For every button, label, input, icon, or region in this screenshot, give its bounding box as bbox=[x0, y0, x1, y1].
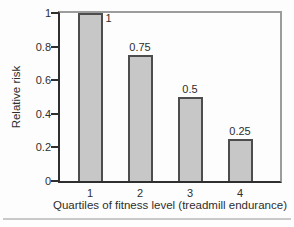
bar bbox=[228, 139, 253, 181]
x-tick-label: 4 bbox=[220, 186, 260, 200]
plot-area bbox=[58, 11, 282, 183]
bar bbox=[178, 97, 203, 181]
y-axis-title: Relative risk bbox=[9, 37, 23, 157]
bar-value-label: 1 bbox=[106, 11, 112, 25]
y-tick-mark bbox=[51, 113, 58, 115]
y-tick-mark bbox=[51, 46, 58, 48]
x-axis-title: Quartiles of fitness level (treadmill en… bbox=[46, 198, 294, 212]
y-tick-label: 1 bbox=[0, 6, 51, 20]
y-tick-label: 0.8 bbox=[0, 40, 51, 54]
y-tick-label: 0.2 bbox=[0, 140, 51, 154]
bottom-divider bbox=[3, 218, 291, 220]
y-tick-mark bbox=[51, 180, 58, 182]
x-tick-label: 1 bbox=[70, 186, 110, 200]
bar-value-label: 0.5 bbox=[170, 82, 210, 96]
y-tick-label: 0.6 bbox=[0, 73, 51, 87]
y-tick-mark bbox=[51, 79, 58, 81]
x-tick-label: 2 bbox=[120, 186, 160, 200]
bar-value-label: 0.25 bbox=[220, 124, 260, 138]
y-tick-label: 0.4 bbox=[0, 107, 51, 121]
bar-value-label: 0.75 bbox=[120, 40, 160, 54]
y-tick-mark bbox=[51, 12, 58, 14]
x-tick-label: 3 bbox=[170, 186, 210, 200]
bar bbox=[78, 13, 103, 181]
bar-chart-figure: Relative risk Quartiles of fitness level… bbox=[0, 0, 294, 227]
bar bbox=[128, 55, 153, 181]
y-tick-label: 0 bbox=[0, 174, 51, 188]
y-tick-mark bbox=[51, 146, 58, 148]
